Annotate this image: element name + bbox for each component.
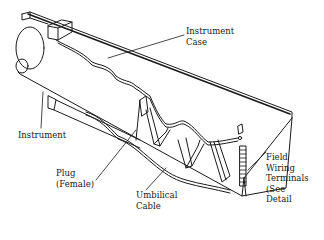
leader-umbilical: [146, 168, 166, 190]
label-field-wiring-terminals: Field Wiring Terminals (See Detail: [266, 152, 309, 205]
round-window: [16, 27, 44, 69]
leader-terminals: [248, 152, 266, 170]
knob: [16, 59, 28, 73]
label-instrument-case: Instrument Case: [186, 26, 234, 47]
leader-instrument: [41, 92, 43, 128]
umbilical-cable: [136, 96, 230, 182]
leader-lines: [41, 35, 266, 190]
label-plug-female: Plug (Female): [56, 168, 94, 189]
label-umbilical-cable: Umbilical Cable: [136, 190, 177, 211]
label-instrument: Instrument: [18, 130, 66, 141]
